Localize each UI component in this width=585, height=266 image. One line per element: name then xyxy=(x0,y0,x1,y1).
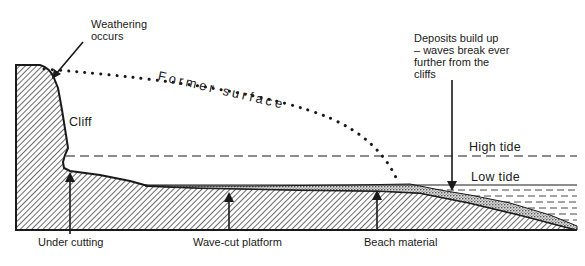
deposits-label-line4: cliffs xyxy=(414,68,509,80)
low-tide-label: Low tide xyxy=(471,171,520,183)
deposits-arrow xyxy=(447,80,457,191)
deposits-label-line1: Deposits build up xyxy=(414,32,509,44)
cliff-label: Cliff xyxy=(69,116,92,128)
weathering-arrow xyxy=(52,42,83,79)
deposits-label-line3: further from the xyxy=(414,56,509,68)
deposits-label-line2: – waves break ever xyxy=(414,44,509,56)
high-tide-label: High tide xyxy=(469,141,521,153)
weathering-label-line2: occurs xyxy=(91,30,147,42)
wave-cut-platform-label: Wave-cut platform xyxy=(193,236,282,248)
under-cutting-label: Under cutting xyxy=(38,236,103,248)
weathering-label: Weathering occurs xyxy=(91,18,147,42)
beach-material-label: Beach material xyxy=(364,236,437,248)
deposits-label: Deposits build up – waves break ever fur… xyxy=(414,32,509,80)
weathering-label-line1: Weathering xyxy=(91,18,147,30)
